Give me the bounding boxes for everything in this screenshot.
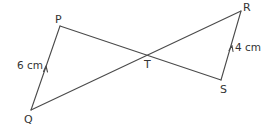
label-r: R bbox=[243, 1, 251, 14]
label-q: Q bbox=[24, 113, 33, 126]
segment-ps bbox=[60, 26, 221, 80]
measurement-pq: 6 cm bbox=[17, 59, 43, 71]
geometry-figure: P Q R S T 6 cm 4 cm bbox=[0, 0, 270, 130]
label-t: T bbox=[143, 58, 151, 71]
label-p: P bbox=[55, 13, 62, 26]
label-s: S bbox=[220, 83, 227, 96]
diagram-canvas: P Q R S T 6 cm 4 cm bbox=[0, 0, 270, 130]
segment-qr bbox=[31, 11, 241, 110]
measurement-rs: 4 cm bbox=[235, 41, 261, 53]
